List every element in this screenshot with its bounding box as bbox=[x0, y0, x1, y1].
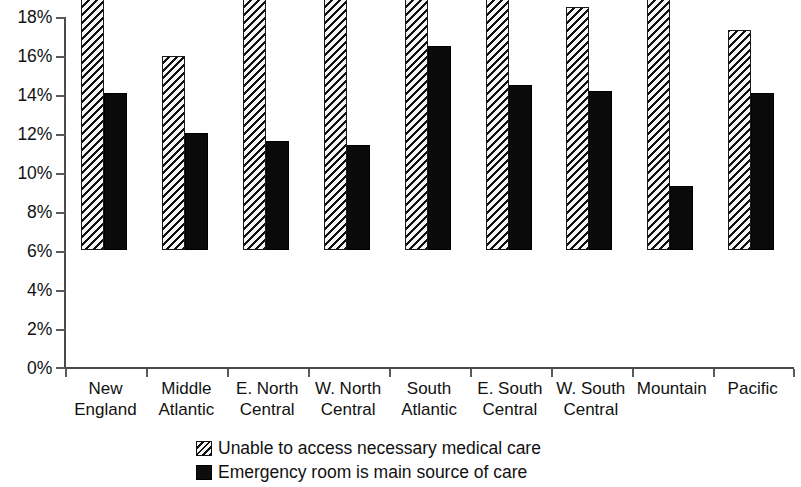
x-tick-mark bbox=[713, 369, 715, 377]
x-axis-label-line: Central bbox=[464, 400, 557, 421]
x-axis-label-line: W. North bbox=[302, 379, 395, 400]
x-tick-mark bbox=[308, 369, 310, 377]
x-tick-mark bbox=[146, 369, 148, 377]
x-axis-label: Mountain bbox=[625, 379, 718, 400]
bar-emergency-room bbox=[670, 186, 693, 250]
x-axis-label-line: E. South bbox=[464, 379, 557, 400]
bar-emergency-room bbox=[104, 93, 127, 251]
bar-unable-to-access bbox=[243, 0, 266, 250]
bar-emergency-room bbox=[266, 141, 289, 250]
x-axis-label: E. SouthCentral bbox=[464, 379, 557, 420]
bar-unable-to-access bbox=[647, 0, 670, 250]
x-tick-mark bbox=[389, 369, 391, 377]
bar-unable-to-access bbox=[566, 7, 589, 250]
plot-area bbox=[0, 0, 801, 369]
legend-item: Emergency room is main source of care bbox=[196, 460, 636, 484]
x-axis-label: MiddleAtlantic bbox=[140, 379, 233, 420]
legend-item: Unable to access necessary medical care bbox=[196, 436, 636, 460]
bar-emergency-room bbox=[428, 46, 451, 250]
x-axis-label: SouthAtlantic bbox=[383, 379, 476, 420]
x-axis-label: W. NorthCentral bbox=[302, 379, 395, 420]
legend-item-label: Emergency room is main source of care bbox=[218, 463, 527, 482]
x-axis-label: NewEngland bbox=[59, 379, 152, 420]
x-axis-category-labels: NewEnglandMiddleAtlanticE. NorthCentralW… bbox=[0, 379, 801, 429]
bar-emergency-room bbox=[751, 93, 774, 251]
x-axis-label: E. NorthCentral bbox=[221, 379, 314, 420]
x-axis-label-line: Pacific bbox=[706, 379, 799, 400]
x-tick-mark bbox=[632, 369, 634, 377]
x-axis-label-line: Atlantic bbox=[140, 400, 233, 421]
x-tick-mark bbox=[470, 369, 472, 377]
bar-unable-to-access bbox=[81, 0, 104, 250]
bar-unable-to-access bbox=[728, 30, 751, 250]
bar-chart: 18% 16% 14% 12% 10% 8% 6% 4% 2% 0% NewEn… bbox=[0, 0, 801, 487]
x-axis-label-line: E. North bbox=[221, 379, 314, 400]
x-axis-label-line: England bbox=[59, 400, 152, 421]
bar-unable-to-access bbox=[162, 56, 185, 250]
bar-unable-to-access bbox=[324, 0, 347, 250]
x-tick-mark bbox=[793, 369, 795, 377]
hatched-swatch-icon bbox=[196, 441, 212, 456]
bar-emergency-room bbox=[589, 91, 612, 250]
legend-item-label: Unable to access necessary medical care bbox=[218, 439, 541, 458]
bar-emergency-room bbox=[185, 133, 208, 250]
x-axis-label: Pacific bbox=[706, 379, 799, 400]
x-axis-label: W. SouthCentral bbox=[544, 379, 637, 420]
x-axis-label-line: New bbox=[59, 379, 152, 400]
x-tick-mark bbox=[65, 369, 67, 377]
x-axis-label-line: Central bbox=[544, 400, 637, 421]
x-tick-mark bbox=[551, 369, 553, 377]
x-axis-label-line: South bbox=[383, 379, 476, 400]
x-axis-label-line: Atlantic bbox=[383, 400, 476, 421]
x-axis-label-line: Middle bbox=[140, 379, 233, 400]
solid-swatch-icon bbox=[196, 465, 212, 480]
x-tick-mark bbox=[227, 369, 229, 377]
bar-unable-to-access bbox=[405, 0, 428, 250]
x-axis-label-line: Mountain bbox=[625, 379, 718, 400]
bar-emergency-room bbox=[347, 145, 370, 250]
x-axis-label-line: Central bbox=[221, 400, 314, 421]
x-axis-label-line: Central bbox=[302, 400, 395, 421]
bar-emergency-room bbox=[509, 85, 532, 250]
x-axis-label-line: W. South bbox=[544, 379, 637, 400]
chart-legend: Unable to access necessary medical care … bbox=[196, 436, 636, 484]
bar-unable-to-access bbox=[486, 0, 509, 250]
